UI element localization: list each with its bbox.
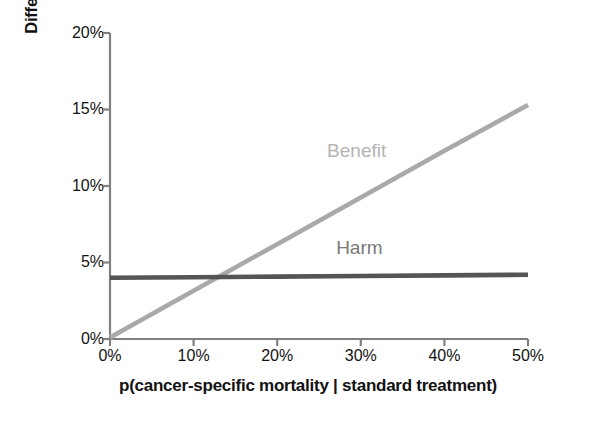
series-label-benefit: Benefit [327,141,386,160]
x-tick-label-30: 30% [326,348,396,364]
x-axis-tick-labels: 0% 10% 20% 30% 40% 50% [0,348,603,370]
x-tick-label-50: 50% [493,348,563,364]
x-tick-label-20: 20% [242,348,312,364]
x-tick-label-10: 10% [159,348,229,364]
series-label-harm: Harm [336,238,382,257]
series-line-harm [110,275,528,278]
series-line-benefit [110,105,528,338]
x-tick-label-40: 40% [409,348,479,364]
chart-figure: Difference in mortality 20% 15% 10% 5% 0… [0,0,603,424]
x-axis-title: p(cancer-specific mortality | standard t… [58,376,558,396]
x-tick-label-0: 0% [75,348,145,364]
